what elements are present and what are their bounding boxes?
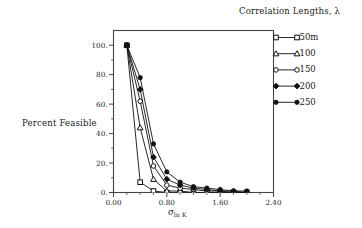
data-point-marker: [164, 176, 170, 182]
x-axis-tick-label: 1.60: [200, 198, 240, 207]
series-line: [127, 45, 247, 192]
legend-entry-200[interactable]: [273, 83, 300, 89]
data-point-marker: [151, 142, 155, 146]
legend-label-100: 100: [300, 48, 316, 58]
series-line: [127, 45, 247, 192]
legend-title: Correlation Lengths, λ: [239, 6, 340, 16]
y-axis-tick-label: 20.: [78, 159, 108, 168]
series-line: [127, 45, 247, 191]
x-axis-label-subscript: ln K: [174, 211, 187, 218]
legend-label-250: 250: [300, 97, 316, 107]
x-axis-tick-label: 2.40: [254, 198, 294, 207]
data-point-marker: [274, 68, 279, 73]
data-point-marker: [125, 43, 129, 47]
legend-entry-100[interactable]: [273, 51, 300, 56]
series-150: [125, 43, 250, 195]
data-point-marker: [274, 35, 279, 40]
data-point-marker: [138, 180, 143, 185]
series-200: [124, 42, 250, 195]
y-axis-tick-label: 100.: [78, 41, 108, 50]
data-point-marker: [218, 187, 222, 191]
legend-label-200: 200: [300, 81, 316, 91]
y-axis-tick-label: 40.: [78, 129, 108, 138]
legend-entry-250[interactable]: [274, 100, 299, 104]
legend-label-50m: 50m: [300, 32, 319, 42]
chart-figure: Correlation Lengths, λ Percent Feasible …: [0, 0, 362, 228]
y-axis-tick-label: 80.: [78, 70, 108, 79]
y-axis-tick-label: 0.: [78, 188, 108, 197]
series-100: [124, 42, 250, 194]
x-axis-tick-label: 0.80: [147, 198, 187, 207]
data-point-marker: [165, 170, 169, 174]
legend-entry-150[interactable]: [274, 68, 300, 73]
legend-title-text: Correlation Lengths, λ: [239, 6, 340, 16]
data-point-marker: [151, 164, 156, 169]
series-line: [127, 45, 247, 192]
data-point-marker: [165, 183, 170, 188]
data-point-marker: [138, 75, 142, 79]
legend-label-150: 150: [300, 64, 316, 74]
data-point-marker: [137, 125, 143, 130]
data-point-marker: [205, 186, 209, 190]
data-point-marker: [151, 176, 157, 181]
series-line: [127, 45, 247, 192]
data-point-marker: [191, 184, 195, 188]
y-axis-label: Percent Feasible: [22, 118, 97, 128]
data-point-marker: [274, 100, 278, 104]
y-axis-tick-label: 60.: [78, 100, 108, 109]
data-point-marker: [178, 180, 182, 184]
x-axis-label: σln K: [168, 207, 187, 218]
series-50m: [125, 43, 250, 195]
x-axis-tick-label: 0.00: [94, 198, 134, 207]
legend-entry-50m[interactable]: [274, 35, 300, 40]
